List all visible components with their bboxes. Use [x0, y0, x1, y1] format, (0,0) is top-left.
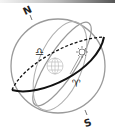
south-label: S — [83, 116, 94, 127]
south-pole-tick — [85, 110, 87, 115]
celestial-sphere-diagram: N S ♎ ♈ — [0, 0, 115, 127]
aries-symbol: ♈ — [72, 78, 81, 89]
north-label: N — [21, 4, 33, 18]
earth-globe-icon — [47, 58, 63, 74]
libra-symbol: ♎ — [35, 46, 44, 57]
north-pole-tick — [30, 15, 32, 20]
